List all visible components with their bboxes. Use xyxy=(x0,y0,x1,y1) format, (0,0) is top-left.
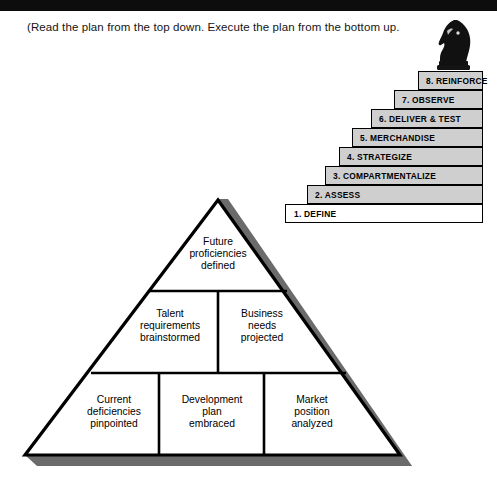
pyramid-outline xyxy=(25,200,400,455)
pyramid-shadow-base xyxy=(25,455,412,466)
diagram-page: (Read the plan from the top down. Execut… xyxy=(0,0,497,487)
pyramid-diagram xyxy=(0,0,497,487)
